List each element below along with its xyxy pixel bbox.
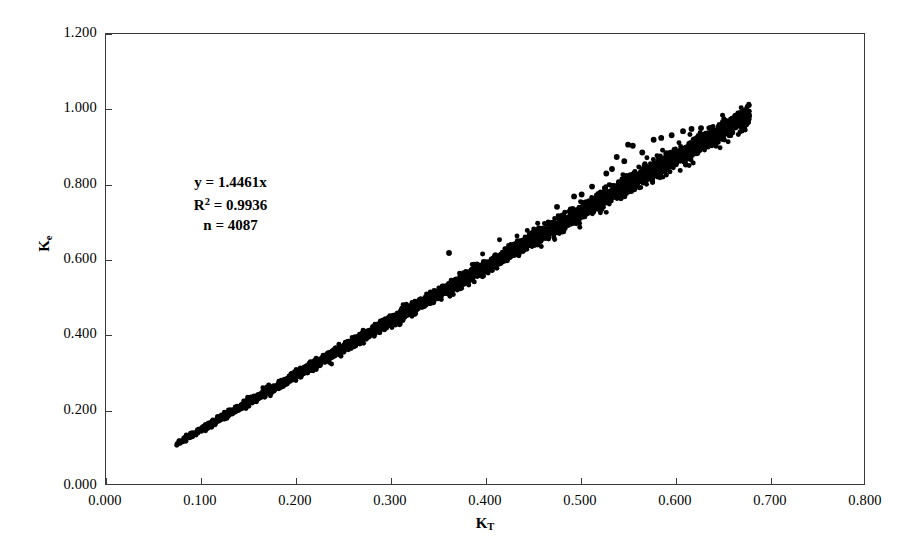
annotation-r-squared: R2 = 0.9936 xyxy=(163,192,298,215)
outlier-point xyxy=(689,126,695,132)
outlier-point xyxy=(698,125,704,131)
outlier-point xyxy=(658,135,664,141)
annotation-sample-size: n = 4087 xyxy=(163,215,298,235)
axis-title-base: K xyxy=(476,515,488,531)
y-tick-label: 0.400 xyxy=(27,325,97,342)
x-tick-label: 0.200 xyxy=(255,492,335,509)
plot-area xyxy=(105,33,865,485)
y-tick xyxy=(106,109,112,110)
y-tick xyxy=(106,185,112,186)
scatter-series xyxy=(106,34,864,484)
x-tick xyxy=(771,478,772,484)
x-tick xyxy=(391,478,392,484)
x-tick-label: 0.800 xyxy=(825,492,905,509)
y-tick-label: 0.800 xyxy=(27,175,97,192)
outlier-point xyxy=(446,250,452,256)
outlier-point xyxy=(609,166,615,172)
outlier-point xyxy=(614,154,620,160)
outlier-point xyxy=(669,132,675,138)
y-tick xyxy=(106,335,112,336)
y-tick xyxy=(106,411,112,412)
y-tick-label: 0.000 xyxy=(27,476,97,493)
x-tick xyxy=(106,478,107,484)
y-tick-label: 1.000 xyxy=(27,99,97,116)
x-tick-label: 0.500 xyxy=(540,492,620,509)
y-tick-label: 0.200 xyxy=(27,401,97,418)
outlier-point xyxy=(639,150,645,156)
x-tick-label: 0.600 xyxy=(635,492,715,509)
y-tick-label: 1.200 xyxy=(27,24,97,41)
x-axis-title: KT xyxy=(425,515,545,532)
x-tick-label: 0.400 xyxy=(445,492,525,509)
outlier-point xyxy=(571,193,577,199)
outlier-point xyxy=(589,184,595,190)
outlier-point xyxy=(651,137,657,143)
outlier-point xyxy=(603,171,609,177)
x-tick xyxy=(676,478,677,484)
regression-annotation: y = 1.4461x R2 = 0.9936 n = 4087 xyxy=(163,172,298,235)
y-axis-title: Ke xyxy=(36,194,53,294)
x-tick xyxy=(201,478,202,484)
r-symbol: R xyxy=(194,197,205,213)
x-tick-label: 0.100 xyxy=(160,492,240,509)
outlier-point xyxy=(621,158,627,164)
axis-title-subscript: T xyxy=(487,521,494,532)
x-tick xyxy=(296,478,297,484)
y-tick xyxy=(106,260,112,261)
annotation-equation: y = 1.4461x xyxy=(163,172,298,192)
axis-title-base: K xyxy=(36,240,52,252)
x-tick-label: 0.700 xyxy=(730,492,810,509)
x-tick-label: 0.300 xyxy=(350,492,430,509)
y-tick xyxy=(106,34,112,35)
outlier-point xyxy=(554,204,560,210)
axis-title-subscript: e xyxy=(43,235,54,240)
scatter-plot-figure: 0.0000.1000.2000.3000.4000.5000.6000.700… xyxy=(0,0,920,559)
x-tick xyxy=(581,478,582,484)
x-tick xyxy=(486,478,487,484)
outlier-point xyxy=(680,128,686,134)
r-value: = 0.9936 xyxy=(210,197,267,213)
outlier-point xyxy=(579,192,585,198)
outlier-point xyxy=(630,143,636,149)
